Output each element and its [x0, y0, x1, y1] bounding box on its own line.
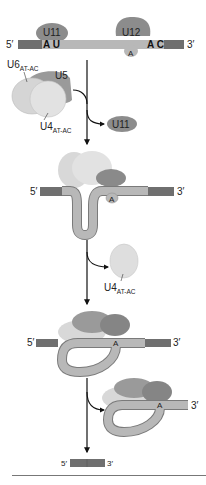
s4-label-3prime: 3′: [191, 400, 199, 411]
label-u12: U12: [122, 27, 141, 38]
s3-exon-5: [36, 339, 58, 347]
bottom-rule: [12, 475, 206, 476]
s4-u5: [142, 381, 172, 403]
product-label-3prime: 3′: [107, 459, 113, 468]
u4-snrnp: [30, 81, 66, 117]
s2-exon-5: [40, 187, 62, 196]
product-label-5prime: 5′: [61, 459, 67, 468]
s3-label-3prime: 3′: [173, 337, 181, 348]
spliced-mrna: 5′ 3′: [61, 459, 113, 468]
label-u5: U5: [55, 70, 68, 81]
arrow-release-u11: [87, 110, 104, 124]
intron: [42, 40, 164, 49]
ligated-exons: [70, 459, 105, 467]
s3-label-5prime: 5′: [27, 337, 35, 348]
s2-label-3prime: 3′: [177, 186, 185, 197]
released-u4: [110, 244, 138, 278]
s3-exon-3: [145, 339, 171, 347]
s2-label-5prime: 5′: [30, 186, 38, 197]
stage1-pre-mrna: 5′ 3′ U11 U12 A U A C A: [6, 17, 195, 58]
stage2-complex: A 5′ 3′: [30, 151, 185, 235]
exon-5: [18, 40, 42, 49]
s4-label-a: A: [157, 401, 163, 410]
arrow-release-u4: [87, 252, 108, 267]
label-u4: U4AT-AC: [40, 121, 72, 134]
s2-intron: [62, 191, 148, 235]
s3-u5: [100, 314, 130, 336]
label-branch-a: A: [128, 49, 134, 58]
tri-snrnp: U6AT-AC U5 U4AT-AC: [7, 59, 72, 134]
stage3-complex: A 5′ 3′: [27, 311, 181, 372]
splicing-diagram: 5′ 3′ U11 U12 A U A C A U6AT-AC U5 U4AT-…: [0, 0, 206, 485]
stage4-lariat-complex: A 3′: [102, 378, 199, 432]
s2-u5: [96, 169, 126, 187]
label-released-u4: U4AT-AC: [104, 282, 136, 295]
s2-exon-3: [148, 187, 174, 196]
label-5prime: 5′: [6, 39, 14, 50]
label-3prime: 3′: [187, 39, 195, 50]
label-ac: A C: [147, 39, 164, 50]
label-released-u11: U11: [112, 119, 130, 130]
arrow-release-lariat: [87, 392, 104, 410]
exon-3: [164, 40, 184, 49]
label-u6: U6AT-AC: [7, 59, 39, 72]
label-au: A U: [43, 39, 60, 50]
s3-label-a: A: [113, 339, 119, 348]
label-u11: U11: [43, 27, 61, 38]
arrow-join: [73, 90, 87, 104]
s2-label-a: A: [109, 195, 115, 204]
